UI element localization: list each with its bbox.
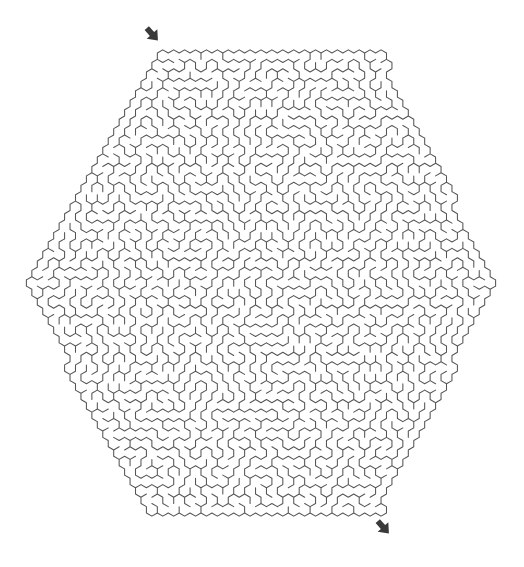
maze-page xyxy=(0,0,524,567)
maze-canvas xyxy=(0,0,524,567)
maze-background xyxy=(0,0,524,567)
